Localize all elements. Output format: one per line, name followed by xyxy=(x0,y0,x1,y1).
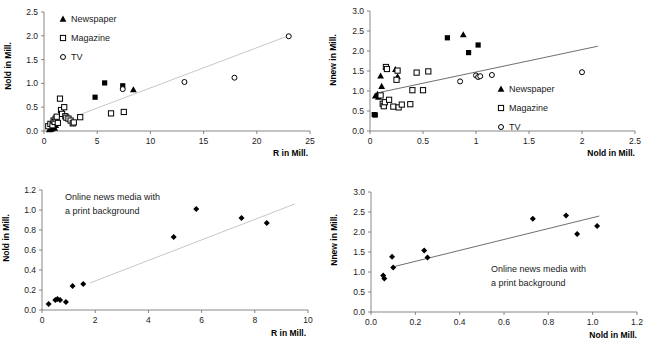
chart-panel-top-right: 00.511.522.50.00.51.01.52.02.53.0 Newspa… xyxy=(323,0,646,178)
data-point-online-5 xyxy=(70,283,76,289)
y-tick-label-3: 1.5 xyxy=(353,247,365,257)
data-point-online-5 xyxy=(425,255,431,261)
data-point-magazine-30 xyxy=(102,80,107,85)
data-point-magazine-23 xyxy=(410,88,415,93)
axes-bottom-right: 0.00.20.40.60.81.01.20.00.51.01.52.02.53… xyxy=(353,187,643,327)
y-tick-label-1: 0.2 xyxy=(24,285,36,295)
data-point-online-10 xyxy=(264,220,270,226)
data-point-online-6 xyxy=(80,281,86,287)
trendline-top-right xyxy=(381,46,598,92)
legend-item-label-1: Magazine xyxy=(71,33,110,43)
figure-container: 05101520250.00.51.01.52.02.5 NewspaperMa… xyxy=(0,0,646,356)
y-tick-label-6: 3.0 xyxy=(352,6,364,16)
axes-top-right: 00.511.522.50.00.51.01.52.02.53.0 xyxy=(352,6,641,146)
data-point-magazine-9 xyxy=(373,112,378,117)
x-tick-label-4: 2 xyxy=(580,136,585,146)
y-tick-label-4: 2.0 xyxy=(352,46,364,56)
x-tick-label-5: 1.0 xyxy=(587,317,599,327)
legend-item-label-2: TV xyxy=(509,122,521,132)
trendline-top-left xyxy=(78,35,291,115)
x-tick-label-3: 0.6 xyxy=(498,317,510,327)
data-point-tv-34 xyxy=(232,75,237,80)
trend-line xyxy=(78,35,291,115)
data-point-online-2 xyxy=(389,254,395,260)
data-point-magazine-27 xyxy=(108,111,113,116)
data-point-tv-33 xyxy=(478,74,483,79)
y-tick-label-2: 1.0 xyxy=(26,78,38,88)
data-point-online-6 xyxy=(530,216,536,222)
y-tick-label-5: 2.5 xyxy=(353,207,365,217)
annotation-line-1: Online news media with xyxy=(65,192,160,202)
annotation-line-2: a print background xyxy=(491,278,566,288)
x-tick-label-5: 10 xyxy=(303,315,313,325)
y-tick-label-1: 0.5 xyxy=(352,106,364,116)
x-tick-label-1: 5 xyxy=(95,136,100,146)
scatter-plot-bottom-left: 02468100.00.20.40.60.81.01.2 Online news… xyxy=(0,178,323,356)
data-point-online-4 xyxy=(421,247,427,253)
x-tick-label-0: 0 xyxy=(42,136,47,146)
axes-top-left: 05101520250.00.51.01.52.02.5 xyxy=(26,7,315,146)
x-tick-label-4: 0.8 xyxy=(542,317,554,327)
legend-top-left: NewspaperMagazineTV xyxy=(60,14,117,62)
annotation-line-1: Online news media with xyxy=(491,264,586,274)
data-point-newspaper-7 xyxy=(130,86,137,92)
y-tick-label-2: 1.0 xyxy=(352,86,364,96)
y-tick-label-2: 0.4 xyxy=(24,265,36,275)
data-points-top-right xyxy=(372,31,585,117)
data-point-magazine-19 xyxy=(62,105,67,110)
x-axis-title: R in Mill. xyxy=(273,148,308,158)
trend-line xyxy=(393,216,599,267)
data-point-tv-35 xyxy=(580,70,585,75)
data-point-magazine-28 xyxy=(121,109,126,114)
x-tick-label-3: 6 xyxy=(199,315,204,325)
data-point-magazine-26 xyxy=(426,69,431,74)
data-point-tv-33 xyxy=(182,79,187,84)
legend-item-label-0: Newspaper xyxy=(509,84,555,94)
data-point-magazine-15 xyxy=(55,120,60,125)
x-tick-label-1: 0.5 xyxy=(417,136,429,146)
y-tick-label-5: 2.5 xyxy=(26,7,38,17)
data-point-magazine-18 xyxy=(394,77,399,82)
data-point-magazine-28 xyxy=(466,50,471,55)
y-tick-label-1: 0.5 xyxy=(353,287,365,297)
data-point-newspaper-4 xyxy=(378,83,385,89)
data-point-magazine-27 xyxy=(445,35,450,40)
data-point-magazine-29 xyxy=(92,95,97,100)
legend-item-entry-0: Newspaper xyxy=(60,14,117,24)
data-point-newspaper-3 xyxy=(377,72,384,78)
data-point-tv-legend-2 xyxy=(499,125,504,130)
chart-panel-top-left: 05101520250.00.51.01.52.02.5 NewspaperMa… xyxy=(0,0,323,178)
data-point-magazine-17 xyxy=(391,104,396,109)
y-tick-label-3: 0.6 xyxy=(24,245,36,255)
data-point-tv-30 xyxy=(458,79,463,84)
data-point-magazine-29 xyxy=(476,42,481,47)
y-axis-title: Nnew in Mill. xyxy=(328,34,338,85)
y-tick-label-6: 3.0 xyxy=(353,187,365,197)
data-point-tv-35 xyxy=(286,34,291,39)
legend-item-entry-1: Magazine xyxy=(498,103,548,113)
y-tick-label-1: 0.5 xyxy=(26,102,38,112)
data-point-newspaper-legend-0 xyxy=(60,16,67,22)
data-point-online-7 xyxy=(171,234,177,240)
y-tick-label-5: 1.0 xyxy=(24,205,36,215)
data-point-magazine-16 xyxy=(386,97,391,102)
y-tick-label-0: 0.0 xyxy=(24,305,36,315)
chart-panel-bottom-right: 0.00.20.40.60.81.01.20.00.51.01.52.02.53… xyxy=(323,178,646,356)
x-tick-label-3: 15 xyxy=(199,136,209,146)
legend-item-label-2: TV xyxy=(71,52,83,62)
x-tick-label-2: 10 xyxy=(146,136,156,146)
y-tick-label-0: 0.0 xyxy=(26,126,38,136)
y-tick-label-6: 1.2 xyxy=(24,185,36,195)
y-axis-title: Nold in Mill. xyxy=(1,214,11,262)
x-tick-label-0: 0.0 xyxy=(365,317,377,327)
data-point-magazine-legend-1 xyxy=(60,35,65,40)
legend-item-entry-1: Magazine xyxy=(60,33,110,43)
x-axis-title: R in Mill. xyxy=(271,328,306,338)
data-point-tv-32 xyxy=(120,87,125,92)
data-point-online-4 xyxy=(63,299,69,305)
data-point-magazine-25 xyxy=(420,88,425,93)
data-point-online-9 xyxy=(239,215,245,221)
trend-line xyxy=(381,46,598,92)
data-point-newspaper-7 xyxy=(460,31,467,37)
annotation-line-2: a print background xyxy=(65,206,140,216)
